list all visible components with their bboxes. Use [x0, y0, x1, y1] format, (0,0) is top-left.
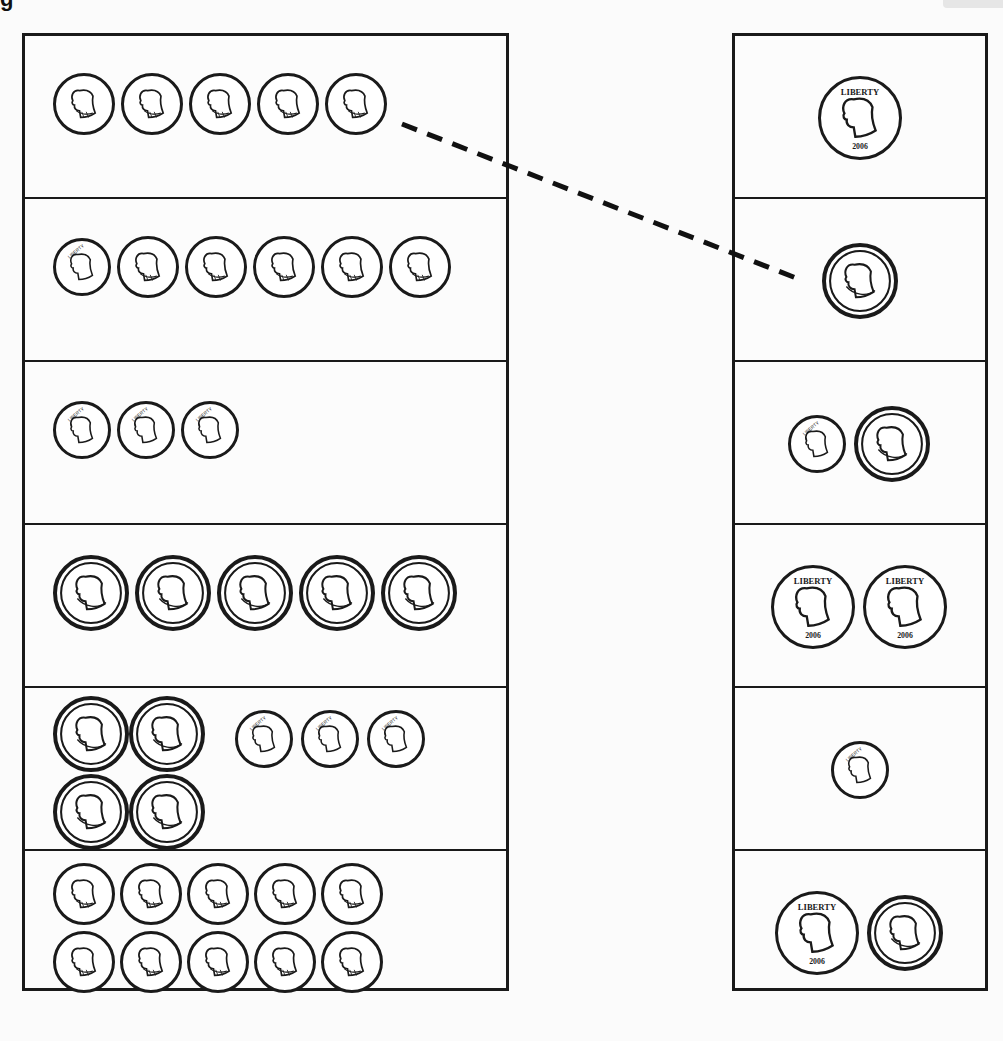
- svg-text:LIBERTY: LIBERTY: [381, 715, 399, 731]
- page-corner-tab: [943, 0, 1003, 8]
- svg-text:LIBERTY: LIBERTY: [67, 243, 85, 259]
- svg-text:LIBERTY: LIBERTY: [249, 715, 267, 731]
- penny-icon: [189, 73, 251, 135]
- nickel-icon: [129, 774, 205, 850]
- right-row-4[interactable]: LIBERTY2006LIBERTY2006: [735, 525, 985, 688]
- penny-icon: [187, 863, 249, 925]
- svg-text:LIBERTY: LIBERTY: [195, 406, 213, 422]
- right-row-2[interactable]: [735, 199, 985, 362]
- dime-icon: LIBERTY: [367, 710, 425, 768]
- nickel-icon: [299, 555, 375, 631]
- svg-text:2006: 2006: [897, 631, 913, 640]
- quarter-icon: LIBERTY2006: [775, 891, 859, 975]
- penny-icon: [121, 73, 183, 135]
- svg-text:LIBERTY: LIBERTY: [315, 715, 333, 731]
- penny-icon: [53, 931, 115, 993]
- nickel-icon: [867, 895, 943, 971]
- svg-text:LIBERTY: LIBERTY: [802, 420, 820, 436]
- svg-text:LIBERTY: LIBERTY: [841, 86, 880, 96]
- worksheet-title: g: [0, 0, 13, 6]
- dime-icon: LIBERTY: [301, 710, 359, 768]
- nickel-icon: [53, 696, 129, 772]
- penny-icon: [257, 73, 319, 135]
- left-row-3[interactable]: LIBERTYLIBERTYLIBERTY: [25, 362, 506, 525]
- left-row-6[interactable]: [25, 851, 506, 1014]
- penny-icon: [389, 236, 451, 298]
- nickel-icon: [854, 406, 930, 482]
- nickel-icon: [129, 696, 205, 772]
- right-row-5[interactable]: LIBERTY: [735, 688, 985, 851]
- nickel-icon: [822, 243, 898, 319]
- dime-icon: LIBERTY: [181, 401, 239, 459]
- left-row-4[interactable]: [25, 525, 506, 688]
- svg-text:LIBERTY: LIBERTY: [798, 901, 837, 911]
- right-row-3[interactable]: LIBERTY: [735, 362, 985, 525]
- penny-icon: [321, 863, 383, 925]
- nickel-icon: [53, 555, 129, 631]
- penny-icon: [120, 931, 182, 993]
- svg-text:2006: 2006: [852, 142, 868, 151]
- svg-text:2006: 2006: [805, 631, 821, 640]
- svg-text:LIBERTY: LIBERTY: [131, 406, 149, 422]
- dime-icon: LIBERTY: [235, 710, 293, 768]
- penny-icon: [254, 931, 316, 993]
- nickel-icon: [381, 555, 457, 631]
- dime-icon: LIBERTY: [117, 401, 175, 459]
- nickel-icon: [135, 555, 211, 631]
- penny-icon: [185, 236, 247, 298]
- dime-icon: LIBERTY: [788, 415, 846, 473]
- dime-icon: LIBERTY: [53, 238, 111, 296]
- penny-icon: [325, 73, 387, 135]
- left-row-2[interactable]: LIBERTY: [25, 199, 506, 362]
- penny-icon: [253, 236, 315, 298]
- penny-icon: [187, 931, 249, 993]
- penny-icon: [254, 863, 316, 925]
- svg-text:LIBERTY: LIBERTY: [886, 575, 925, 585]
- right-coin-column: LIBERTY2006LIBERTYLIBERTY2006LIBERTY2006…: [732, 33, 988, 991]
- left-row-5[interactable]: LIBERTYLIBERTYLIBERTY: [25, 688, 506, 851]
- penny-icon: [53, 73, 115, 135]
- right-row-6[interactable]: LIBERTY2006: [735, 851, 985, 1014]
- left-row-1[interactable]: [25, 36, 506, 199]
- penny-icon: [117, 236, 179, 298]
- svg-text:LIBERTY: LIBERTY: [67, 406, 85, 422]
- svg-text:2006: 2006: [809, 957, 825, 966]
- nickel-icon: [217, 555, 293, 631]
- dime-icon: LIBERTY: [831, 741, 889, 799]
- penny-icon: [53, 863, 115, 925]
- dime-icon: LIBERTY: [53, 401, 111, 459]
- quarter-icon: LIBERTY2006: [863, 565, 947, 649]
- left-coin-column: LIBERTYLIBERTYLIBERTYLIBERTYLIBERTYLIBER…: [22, 33, 509, 991]
- nickel-icon: [53, 774, 129, 850]
- svg-text:LIBERTY: LIBERTY: [794, 575, 833, 585]
- right-row-1[interactable]: LIBERTY2006: [735, 36, 985, 199]
- svg-text:LIBERTY: LIBERTY: [845, 746, 863, 762]
- penny-icon: [120, 863, 182, 925]
- penny-icon: [321, 931, 383, 993]
- penny-icon: [321, 236, 383, 298]
- quarter-icon: LIBERTY2006: [771, 565, 855, 649]
- quarter-icon: LIBERTY2006: [818, 76, 902, 160]
